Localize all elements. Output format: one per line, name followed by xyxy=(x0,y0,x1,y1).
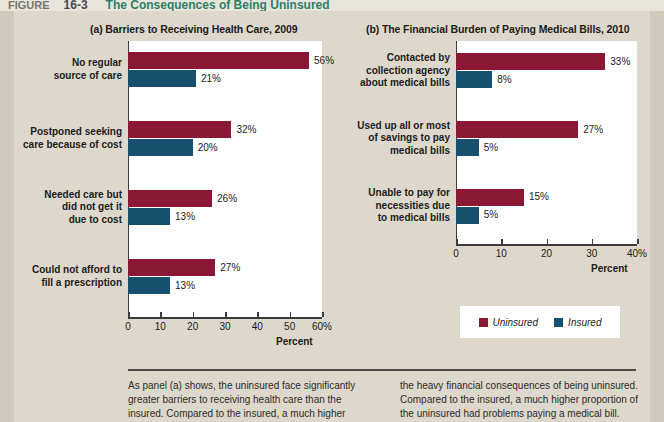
axis-tick-label: 0 xyxy=(453,249,459,259)
figure-label: FIGURE xyxy=(8,0,50,11)
axis-tick-label: 40 xyxy=(252,322,263,332)
category-label: Unable to pay for necessities due to med… xyxy=(340,187,450,225)
axis-tick xyxy=(128,312,130,317)
category-label: Needed care but did not get it due to co… xyxy=(16,189,122,227)
axis-tick-label: 0 xyxy=(125,322,131,332)
axis-tick-label: 10 xyxy=(496,249,507,259)
axis-tick xyxy=(322,312,324,317)
category-label: Could not afford to fill a prescription xyxy=(16,264,122,289)
bar-value-label: 21% xyxy=(201,74,221,84)
axis-title: Percent xyxy=(276,336,313,347)
axis-tick-label: 20 xyxy=(541,249,552,259)
category-label: Contacted by collection agency about med… xyxy=(340,52,450,90)
axis-tick xyxy=(225,312,227,317)
bar-uninsured-3 xyxy=(456,189,524,206)
bar-value-label: 26% xyxy=(217,194,237,204)
bar-value-label: 15% xyxy=(529,192,549,202)
axis-tick xyxy=(501,239,503,244)
figure-panel: (a) Barriers to Receiving Health Care, 2… xyxy=(14,11,650,422)
axis-tick-label: 30 xyxy=(586,249,597,259)
axis-tick xyxy=(257,312,259,317)
axis-tick-label: 20 xyxy=(187,322,198,332)
panel-a-title: (a) Barriers to Receiving Health Care, 2… xyxy=(90,23,298,35)
axis-tick-label: 30 xyxy=(219,322,230,332)
axis-line xyxy=(128,317,322,319)
figure-header-strip: FIGURE 16-3 The Consequences of Being Un… xyxy=(0,0,664,11)
axis-tick xyxy=(456,239,458,244)
axis-tick xyxy=(592,239,594,244)
bar-insured-4 xyxy=(128,277,170,294)
legend-item-insured: Insured xyxy=(554,317,601,328)
axis-tick xyxy=(637,239,639,244)
bar-insured-3 xyxy=(456,207,479,224)
bar-value-label: 33% xyxy=(610,57,630,67)
legend-swatch-icon xyxy=(479,318,488,327)
bar-insured-1 xyxy=(456,71,492,88)
bar-uninsured-1 xyxy=(128,52,309,69)
figure-number: 16-3 xyxy=(64,0,88,11)
legend-label: Insured xyxy=(568,317,601,328)
axis-tick xyxy=(193,312,195,317)
caption-column-left: As panel (a) shows, the uninsured face s… xyxy=(128,379,378,421)
axis-tick-label: 60% xyxy=(312,322,332,332)
bar-value-label: 56% xyxy=(314,56,334,66)
axis-tick xyxy=(160,312,162,317)
chart-legend: UninsuredInsured xyxy=(460,306,620,338)
bar-uninsured-2 xyxy=(456,121,578,138)
legend-item-uninsured: Uninsured xyxy=(479,317,539,328)
figure-title: The Consequences of Being Uninsured xyxy=(106,0,330,11)
axis-tick xyxy=(290,312,292,317)
category-label: No regular source of care xyxy=(16,57,122,82)
bar-uninsured-1 xyxy=(456,53,605,70)
panel-b-title: (b) The Financial Burden of Paying Medic… xyxy=(366,23,630,35)
axis-tick-label: 10 xyxy=(155,322,166,332)
bar-value-label: 5% xyxy=(484,143,498,153)
legend-swatch-icon xyxy=(554,318,563,327)
axis-tick-label: 40% xyxy=(627,249,647,259)
bar-value-label: 20% xyxy=(198,143,218,153)
bar-value-label: 5% xyxy=(484,210,498,220)
axis-line xyxy=(456,244,637,246)
bar-value-label: 32% xyxy=(236,125,256,135)
figure-caption: As panel (a) shows, the uninsured face s… xyxy=(128,379,650,421)
bar-value-label: 8% xyxy=(497,75,511,85)
caption-divider-rule xyxy=(128,369,636,371)
bar-value-label: 27% xyxy=(583,125,603,135)
bar-value-label: 27% xyxy=(220,263,240,273)
bar-insured-3 xyxy=(128,208,170,225)
bar-insured-1 xyxy=(128,70,196,87)
legend-label: Uninsured xyxy=(493,317,539,328)
bar-uninsured-3 xyxy=(128,190,212,207)
category-label: Used up all or most of savings to pay me… xyxy=(340,120,450,158)
bar-value-label: 13% xyxy=(175,212,195,222)
caption-column-right: the heavy financial consequences of bein… xyxy=(400,379,650,421)
bar-value-label: 13% xyxy=(175,281,195,291)
axis-tick-label: 50 xyxy=(284,322,295,332)
axis-tick xyxy=(547,239,549,244)
category-label: Postponed seeking care because of cost xyxy=(16,126,122,151)
bar-insured-2 xyxy=(456,139,479,156)
bar-uninsured-4 xyxy=(128,259,215,276)
bar-insured-2 xyxy=(128,139,193,156)
bar-uninsured-2 xyxy=(128,121,231,138)
axis-title: Percent xyxy=(591,263,628,274)
